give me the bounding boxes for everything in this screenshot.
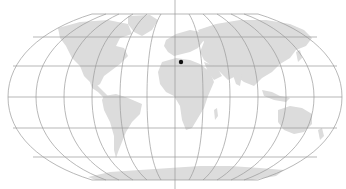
- madagascar: [214, 108, 218, 120]
- europe: [164, 30, 204, 56]
- new-zealand: [318, 128, 324, 140]
- location-marker-dot[interactable]: [179, 60, 183, 64]
- world-map: [0, 0, 346, 189]
- africa: [158, 58, 214, 130]
- land-masses: [58, 15, 324, 180]
